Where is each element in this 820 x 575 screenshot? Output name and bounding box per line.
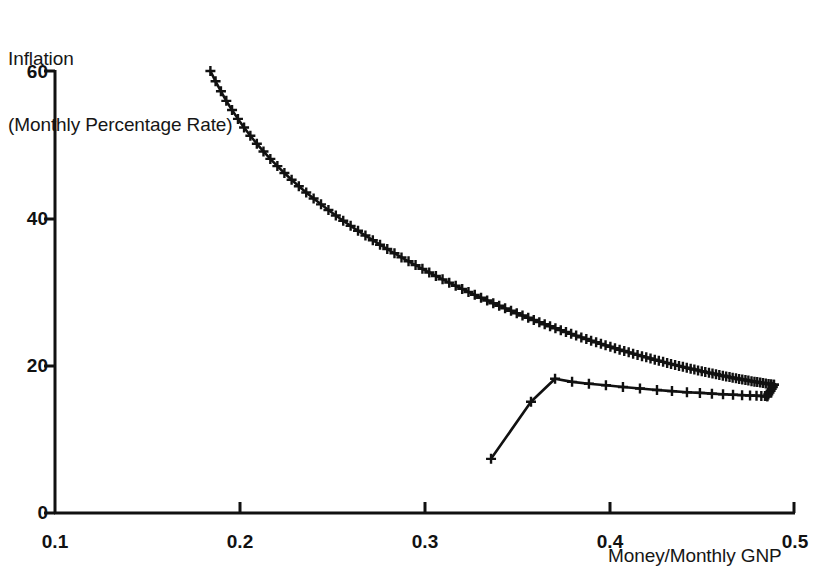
data-point-marker	[529, 315, 539, 325]
data-point-marker	[556, 325, 566, 335]
data-point-marker	[561, 327, 571, 337]
data-point-marker	[540, 319, 550, 329]
data-point-marker	[667, 386, 677, 396]
data-point-marker	[571, 331, 581, 341]
series-line	[210, 71, 774, 385]
data-point-marker	[581, 334, 591, 344]
data-point-marker	[566, 329, 576, 339]
data-point-marker	[635, 384, 645, 394]
data-point-marker	[601, 380, 611, 390]
chart-figure: Inflation (Monthly Percentage Rate) Mone…	[0, 0, 820, 575]
data-point-marker	[216, 86, 226, 96]
series-lower-branch	[486, 374, 772, 464]
data-point-marker	[584, 379, 594, 389]
data-point-marker	[567, 377, 577, 387]
data-point-marker	[545, 321, 555, 331]
data-point-marker	[205, 66, 215, 76]
data-point-marker	[576, 332, 586, 342]
data-point-marker	[586, 336, 596, 346]
data-point-marker	[550, 323, 560, 333]
data-point-marker	[211, 76, 221, 86]
data-point-marker	[618, 382, 628, 392]
plot-area	[0, 0, 820, 575]
data-series-layer	[205, 66, 779, 464]
series-upper-branch	[205, 66, 779, 390]
axes	[44, 70, 795, 514]
data-point-marker	[728, 390, 738, 400]
data-point-marker	[534, 317, 544, 327]
data-point-marker	[591, 337, 601, 347]
data-point-marker	[718, 389, 728, 399]
data-point-marker	[682, 387, 692, 397]
data-point-marker	[695, 388, 705, 398]
data-point-marker	[652, 385, 662, 395]
series-line	[491, 379, 767, 459]
data-point-marker	[523, 313, 533, 323]
data-point-marker	[707, 389, 717, 399]
